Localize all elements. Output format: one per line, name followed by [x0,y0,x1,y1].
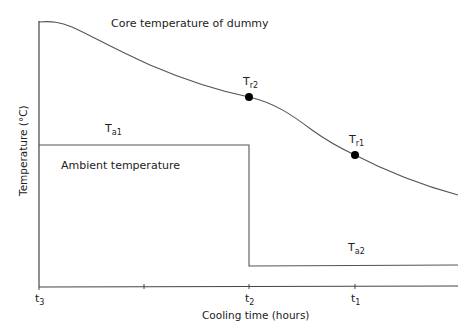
t3-sub: 3 [39,298,44,307]
Ta1-main: T [105,122,112,135]
marker-Tr1 [351,151,359,159]
Tr1-label: Tr1 [349,133,364,148]
Ta2-label: Ta2 [348,241,365,256]
y-axis-title: Temperature (°C) [17,105,29,196]
Tr1-main: T [349,133,356,146]
x-tick-label-t2: t2 [245,292,254,307]
x-tick-label-t3: t3 [35,292,44,307]
Ta1-label: Ta1 [105,122,122,137]
Ta2-main: T [348,241,355,254]
marker-Tr2 [245,93,253,101]
x-axis-title: Cooling time (hours) [202,309,309,321]
t1-sub: 1 [355,298,360,307]
core-temperature-label: Core temperature of dummy [111,17,269,30]
x-tick-label-t1: t1 [351,292,360,307]
Tr1-sub: r1 [356,139,364,148]
Tr2-sub: r2 [250,81,258,90]
Ta1-sub: a1 [112,128,122,137]
Tr2-label: Tr2 [243,75,258,90]
ambient-temperature-label: Ambient temperature [61,159,180,172]
t2-sub: 2 [249,298,254,307]
Ta2-sub: a2 [355,247,365,256]
Tr2-main: T [243,75,250,88]
